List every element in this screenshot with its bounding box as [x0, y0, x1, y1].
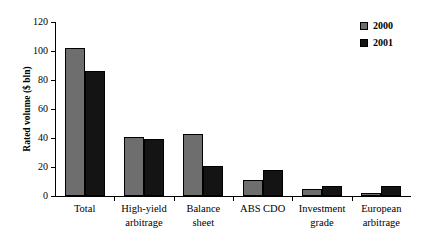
y-axis-tick-label: 60	[38, 104, 48, 114]
y-axis-title: Rated volume ($ bln)	[22, 24, 32, 194]
bar	[263, 170, 283, 196]
x-axis-tick-mark	[233, 196, 234, 201]
x-axis-category-label: Total	[55, 202, 114, 216]
bars-layer	[55, 22, 411, 196]
y-axis-tick-label: 0	[43, 191, 48, 201]
bar	[203, 166, 223, 196]
y-axis-tick-label: 100	[33, 46, 48, 56]
bar	[243, 180, 263, 196]
y-axis-tick-label: 40	[38, 133, 48, 143]
bar	[361, 193, 381, 196]
bar	[124, 137, 144, 196]
x-axis-category-label: Investment grade	[292, 202, 351, 229]
bar	[183, 134, 203, 196]
chart-legend: 20002001	[360, 18, 422, 52]
x-axis-tick-mark	[174, 196, 175, 201]
x-axis-category-label: ABS CDO	[233, 202, 292, 216]
bar-chart: Rated volume ($ bln) 020406080100120 Tot…	[0, 0, 427, 250]
bar	[302, 189, 322, 196]
y-axis-tick-label: 20	[38, 162, 48, 172]
y-axis-tick-mark	[51, 196, 55, 197]
bar	[144, 139, 164, 196]
bar	[322, 186, 342, 196]
legend-swatch-icon	[360, 39, 368, 47]
legend-swatch-icon	[360, 22, 368, 30]
x-axis-tick-mark	[114, 196, 115, 201]
bar	[65, 48, 85, 196]
x-axis-tick-mark	[292, 196, 293, 201]
x-axis-category-label: Balance sheet	[174, 202, 233, 229]
legend-item: 2000	[360, 18, 422, 33]
plot-area: 020406080100120	[55, 22, 411, 196]
x-axis-category-label: High-yield arbitrage	[114, 202, 173, 229]
legend-item: 2001	[360, 35, 422, 50]
y-axis-tick-label: 80	[38, 75, 48, 85]
y-axis-tick-label: 120	[33, 17, 48, 27]
legend-item-label: 2000	[373, 21, 393, 31]
bar	[85, 71, 105, 196]
x-axis-tick-mark	[352, 196, 353, 201]
x-axis-category-label: European arbitrage	[352, 202, 411, 229]
legend-item-label: 2001	[373, 38, 393, 48]
x-axis-labels: TotalHigh-yield arbitrageBalance sheetAB…	[55, 202, 411, 248]
bar	[381, 186, 401, 196]
